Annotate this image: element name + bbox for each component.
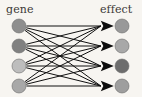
- gene-node-3: [12, 59, 26, 73]
- gene-node-2: [12, 39, 26, 53]
- column-label-effect: effect: [100, 3, 133, 16]
- effect-node-3: [115, 59, 129, 73]
- gene-node-1: [12, 19, 26, 33]
- gene-effect-diagram: gene effect: [0, 0, 142, 97]
- effect-node-4: [115, 79, 129, 93]
- effect-node-2: [115, 39, 129, 53]
- graph-canvas: gene effect: [0, 0, 142, 97]
- effect-node-1: [115, 19, 129, 33]
- gene-node-4: [12, 79, 26, 93]
- column-label-gene: gene: [6, 3, 34, 16]
